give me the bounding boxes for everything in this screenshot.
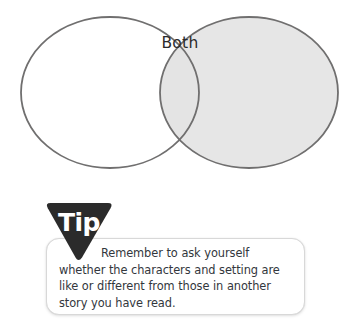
- page-root: Both Remember to ask yourself whether th…: [0, 0, 356, 335]
- venn-diagram: Both: [0, 0, 356, 185]
- tip-callout: Remember to ask yourself whether the cha…: [0, 196, 356, 335]
- venn-diagram-svg: Both: [0, 0, 356, 185]
- tip-badge-label: Tip: [58, 208, 100, 237]
- tip-badge: Tip: [42, 200, 122, 264]
- tip-badge-svg: Tip: [42, 200, 122, 264]
- venn-intersection-label: Both: [161, 34, 198, 52]
